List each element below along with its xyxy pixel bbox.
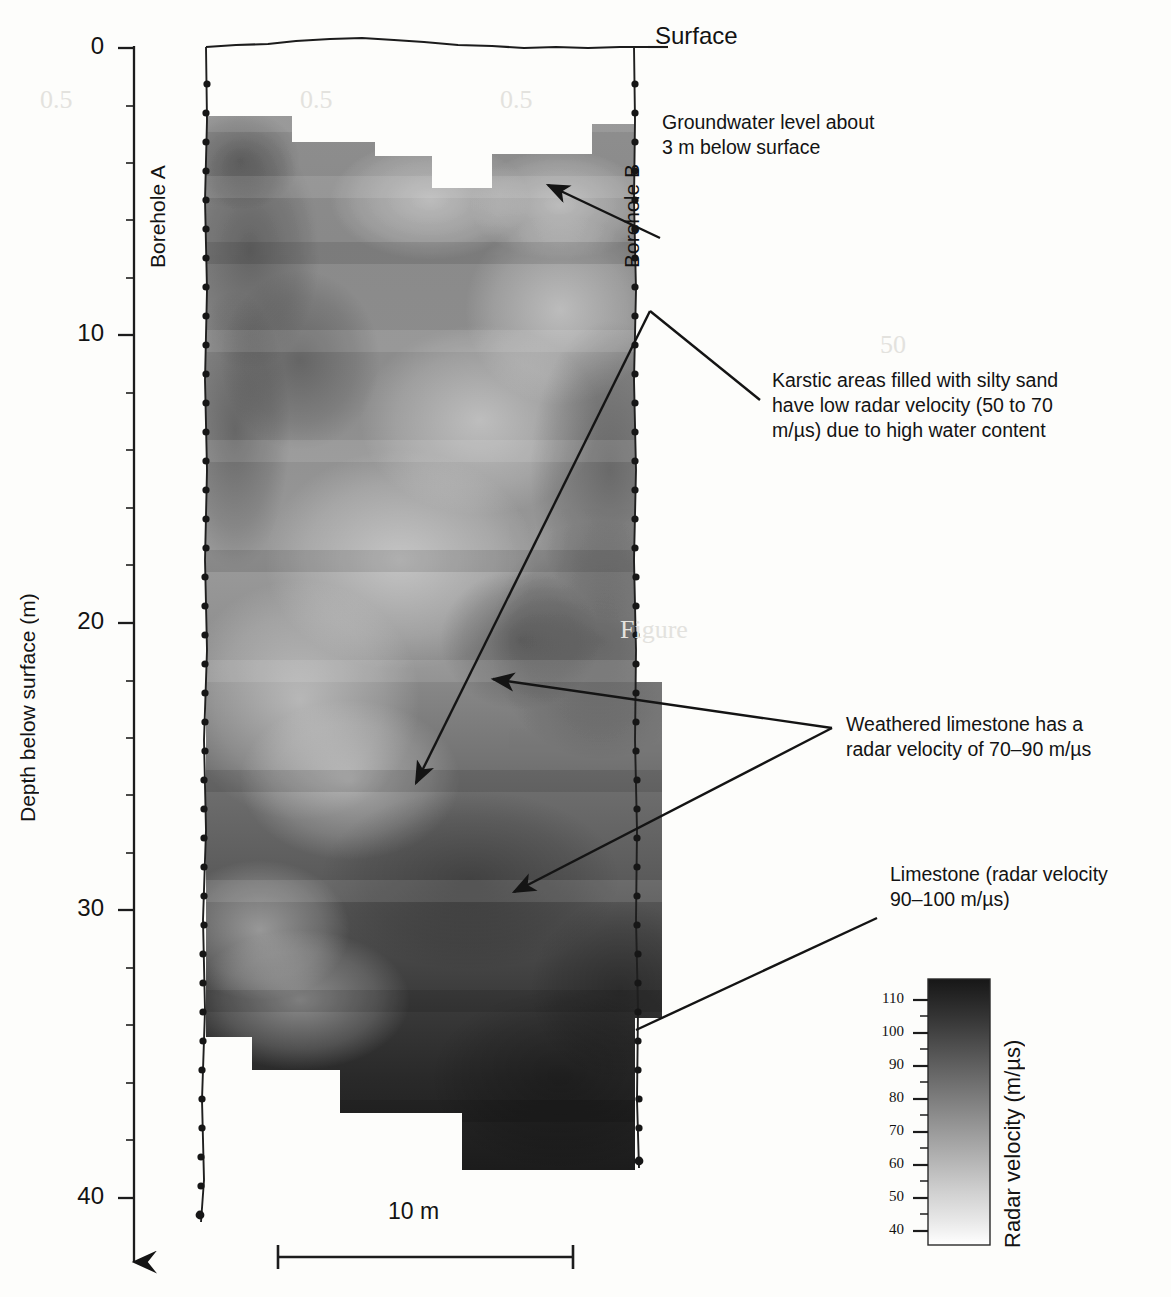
borehole-b-label: Borehole B — [620, 68, 644, 268]
annotation-limestone-line2: 90–100 m/µs) — [890, 887, 1171, 912]
annotation-karstic-line2: have low radar velocity (50 to 70 — [772, 393, 1171, 418]
annotation-groundwater: Groundwater level about 3 m below surfac… — [662, 110, 992, 160]
surface-label: Surface — [655, 22, 738, 50]
colorbar-tick-110: 110 — [858, 990, 904, 1007]
velocity-tomogram-image — [170, 110, 710, 1175]
annotation-limestone-line1: Limestone (radar velocity — [890, 862, 1171, 887]
depth-tick-20: 20 — [52, 607, 104, 635]
borehole-a-label: Borehole A — [146, 68, 170, 268]
colorbar-tick-70: 70 — [858, 1122, 904, 1139]
annotation-weathered-line2: radar velocity of 70–90 m/µs — [846, 737, 1171, 762]
annotation-limestone: Limestone (radar velocity 90–100 m/µs) — [890, 862, 1171, 912]
depth-tick-40: 40 — [52, 1182, 104, 1210]
annotation-karstic-line1: Karstic areas filled with silty sand — [772, 368, 1171, 393]
colorbar-minor-ticks — [920, 1016, 928, 1214]
tomogram-figure — [0, 0, 1171, 1297]
colorbar-tick-60: 60 — [858, 1155, 904, 1172]
colorbar-swatch — [928, 979, 990, 1245]
limestone-leader — [636, 918, 877, 1030]
annotation-groundwater-line2: 3 m below surface — [662, 135, 992, 160]
colorbar-title: Radar velocity (m/µs) — [1000, 978, 1026, 1248]
ground-surface-line — [206, 38, 648, 48]
annotation-weathered-line1: Weathered limestone has a — [846, 712, 1171, 737]
scale-bar — [278, 1245, 573, 1269]
colorbar-tick-50: 50 — [858, 1188, 904, 1205]
scale-bar-label: 10 m — [388, 1198, 439, 1225]
annotation-groundwater-line1: Groundwater level about — [662, 110, 992, 135]
depth-tick-0: 0 — [52, 32, 104, 60]
depth-axis-title: Depth below surface (m) — [16, 402, 40, 822]
colorbar-tick-90: 90 — [858, 1056, 904, 1073]
depth-tick-10: 10 — [52, 319, 104, 347]
annotation-karstic-line3: m/µs) due to high water content — [772, 418, 1171, 443]
depth-tick-30: 30 — [52, 894, 104, 922]
annotation-weathered: Weathered limestone has a radar velocity… — [846, 712, 1171, 762]
karstic-leader-upper — [650, 311, 760, 400]
colorbar-tick-40: 40 — [858, 1221, 904, 1238]
annotation-karstic: Karstic areas filled with silty sand hav… — [772, 368, 1171, 443]
colorbar-tick-100: 100 — [858, 1023, 904, 1040]
colorbar-tick-80: 80 — [858, 1089, 904, 1106]
